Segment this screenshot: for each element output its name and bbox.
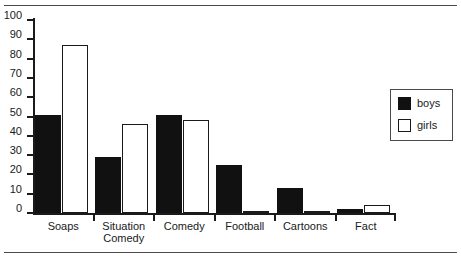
legend-swatch-boys-icon bbox=[398, 97, 411, 110]
plot-area: 0102030405060708090100 SoapsSituation Co… bbox=[33, 18, 396, 215]
legend-swatch-girls-icon bbox=[398, 119, 411, 132]
y-tick-label-60: 60 bbox=[0, 87, 22, 98]
bar-girls-football bbox=[243, 211, 269, 213]
bar-boys-cartoons bbox=[277, 188, 303, 213]
y-tick-90: 90 bbox=[27, 38, 35, 40]
x-axis-label-fact: Fact bbox=[336, 220, 397, 232]
y-tick-70: 70 bbox=[27, 77, 35, 79]
y-tick-label-50: 50 bbox=[0, 107, 22, 118]
y-tick-80: 80 bbox=[27, 58, 35, 60]
bar-boys-soaps bbox=[35, 115, 61, 213]
chart-legend: boys girls bbox=[390, 89, 453, 141]
bar-boys-comedy bbox=[156, 115, 182, 213]
legend-entry-girls: girls bbox=[398, 119, 437, 132]
legend-label-girls: girls bbox=[417, 120, 437, 131]
x-axis-label-situation-comedy: Situation Comedy bbox=[94, 220, 155, 244]
bar-boys-fact bbox=[337, 209, 363, 213]
figure-top-rule bbox=[4, 5, 457, 6]
bar-girls-cartoons bbox=[304, 211, 330, 213]
y-tick-label-10: 10 bbox=[0, 184, 22, 195]
y-tick-label-0: 0 bbox=[0, 203, 22, 214]
x-axis-label-comedy: Comedy bbox=[154, 220, 215, 232]
y-tick-100: 100 bbox=[27, 19, 35, 21]
x-axis-label-cartoons: Cartoons bbox=[275, 220, 336, 232]
bar-boys-situation-comedy bbox=[95, 157, 121, 213]
x-axis-label-soaps: Soaps bbox=[33, 220, 94, 232]
bar-boys-football bbox=[216, 165, 242, 213]
y-tick-60: 60 bbox=[27, 96, 35, 98]
y-tick-label-20: 20 bbox=[0, 164, 22, 175]
legend-entry-boys: boys bbox=[398, 97, 440, 110]
y-tick-label-90: 90 bbox=[0, 29, 22, 40]
bar-girls-situation-comedy bbox=[122, 124, 148, 213]
y-tick-label-30: 30 bbox=[0, 145, 22, 156]
bar-chart-figure: 0102030405060708090100 SoapsSituation Co… bbox=[0, 0, 461, 260]
x-axis-label-football: Football bbox=[215, 220, 276, 232]
y-tick-label-100: 100 bbox=[0, 10, 22, 21]
bar-girls-comedy bbox=[183, 120, 209, 213]
y-tick-label-80: 80 bbox=[0, 49, 22, 60]
legend-label-boys: boys bbox=[417, 98, 440, 109]
bar-girls-fact bbox=[364, 205, 390, 213]
figure-bottom-rule bbox=[4, 252, 457, 253]
y-tick-label-70: 70 bbox=[0, 68, 22, 79]
bar-girls-soaps bbox=[62, 45, 88, 213]
y-tick-label-40: 40 bbox=[0, 126, 22, 137]
